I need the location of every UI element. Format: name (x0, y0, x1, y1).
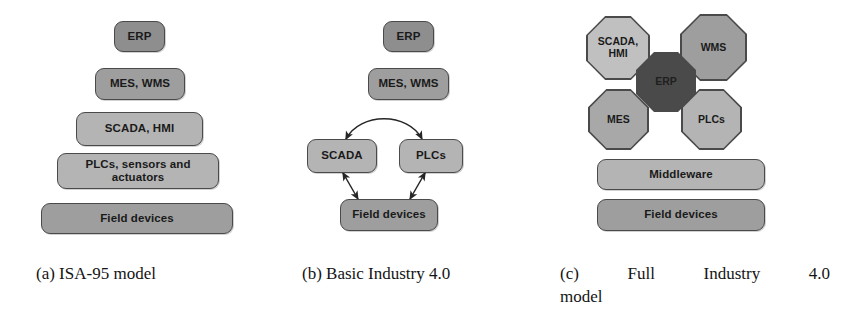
node-scada-hmi-label: SCADA, HMI (102, 122, 177, 135)
octagon-plcs: PLCs (681, 89, 742, 150)
bar-middleware-label: Middleware (646, 168, 716, 181)
node-plcs: PLCs (399, 139, 463, 173)
node-plcs-sensors-line2: actuators (109, 171, 168, 184)
bar-field-devices: Field devices (597, 199, 765, 231)
octagon-mes-label: MES (607, 114, 630, 126)
node-erp-label: ERP (125, 30, 155, 43)
bar-field-devices-label: Field devices (641, 208, 721, 221)
panel-basic-industry-40: ERP MES, WMS SCADA PLCs Field devices (282, 0, 564, 250)
caption-panel-b-text: (b) Basic Industry 4.0 (302, 264, 450, 283)
arc-scada-plcs (346, 119, 422, 139)
node-field-devices-label: Field devices (97, 212, 177, 225)
figure-canvas: ERP MES, WMS SCADA, HMI PLCs, sensors an… (0, 0, 847, 328)
node-field-devices-label: Field devices (349, 208, 429, 221)
caption-panel-a: (a) ISA-95 model (36, 262, 266, 285)
node-plcs-label: PLCs (413, 149, 449, 162)
arrow-scada-field (343, 173, 358, 199)
node-mes-wms: MES, WMS (368, 68, 449, 100)
node-scada-label: SCADA (318, 149, 365, 162)
node-mes-wms: MES, WMS (95, 68, 185, 100)
caption-panel-c: (c) Full Industry 4.0 model (560, 262, 830, 309)
octagon-wms-label: WMS (701, 42, 727, 54)
caption-panel-c-word-version: 4.0 (809, 262, 830, 285)
octagon-mes: MES (588, 89, 649, 150)
node-plcs-sensors-actuators: PLCs, sensors and actuators (57, 153, 219, 189)
caption-panel-c-prefix: (c) (560, 262, 579, 285)
panel-isa95: ERP MES, WMS SCADA, HMI PLCs, sensors an… (0, 0, 282, 250)
caption-panel-b: (b) Basic Industry 4.0 (302, 262, 537, 285)
arrow-plcs-field (410, 173, 425, 199)
node-field-devices: Field devices (340, 199, 438, 231)
panel-full-industry-40: SCADA, HMI WMS ERP MES (564, 0, 846, 250)
node-scada: SCADA (307, 139, 377, 173)
node-plcs-sensors-line1: PLCs, sensors and (82, 158, 193, 171)
node-erp: ERP (114, 21, 165, 52)
node-erp-label: ERP (394, 30, 424, 43)
caption-panel-a-text: (a) ISA-95 model (36, 264, 156, 283)
bar-middleware: Middleware (597, 159, 765, 190)
caption-panel-c-word-full: Full (627, 262, 654, 285)
node-erp: ERP (383, 21, 434, 52)
node-mes-wms-label: MES, WMS (375, 77, 441, 90)
node-mes-wms-label: MES, WMS (107, 77, 173, 90)
caption-panel-c-line2: model (560, 285, 830, 308)
caption-panel-c-line1: (c) Full Industry 4.0 (560, 262, 830, 285)
caption-panel-c-word-industry: Industry (703, 262, 760, 285)
octagon-scada-hmi-line2: HMI (608, 48, 627, 60)
octagon-erp-label: ERP (655, 76, 677, 88)
node-scada-hmi: SCADA, HMI (76, 112, 203, 146)
octagon-plcs-label: PLCs (698, 114, 725, 126)
node-field-devices: Field devices (41, 203, 233, 234)
